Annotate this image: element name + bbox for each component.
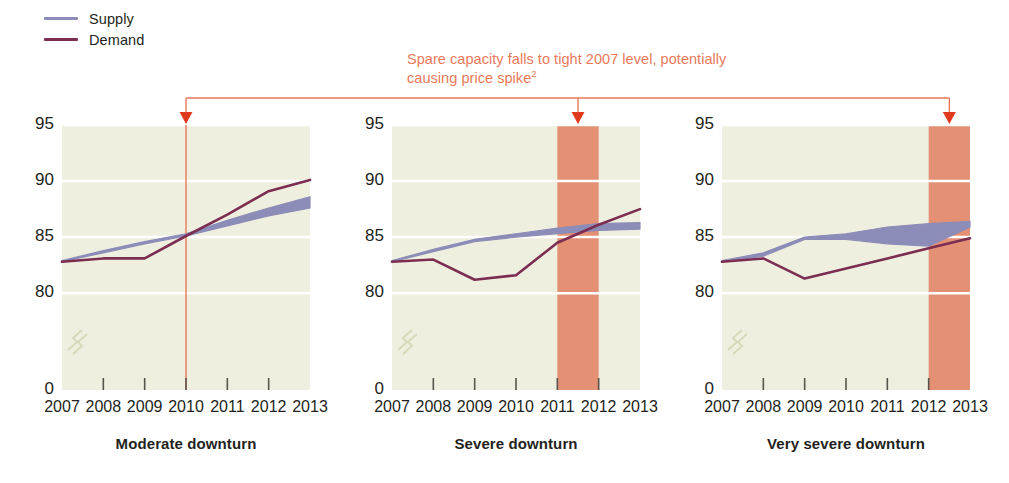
x-axis-tick-label: 2010: [823, 398, 869, 416]
y-axis-tick-label: 90: [20, 170, 54, 190]
y-axis-tick-label: 90: [350, 170, 384, 190]
y-axis-tick-label: 0: [350, 379, 384, 399]
x-axis-tick-label: 2012: [906, 398, 952, 416]
y-axis-tick-label: 90: [680, 170, 714, 190]
x-axis-tick-label: 2010: [493, 398, 539, 416]
x-axis-tick-label: 2011: [534, 398, 580, 416]
x-axis-tick-label: 2008: [80, 398, 126, 416]
connector-arrow-icon: [180, 112, 193, 124]
y-axis-tick-label: 0: [20, 379, 54, 399]
y-axis-tick-label: 85: [20, 226, 54, 246]
y-axis-tick-label: 95: [20, 114, 54, 134]
x-axis-tick-label: 2012: [576, 398, 622, 416]
x-axis-tick-label: 2009: [782, 398, 828, 416]
chart-panel: [62, 125, 310, 390]
y-axis-tick-label: 80: [350, 282, 384, 302]
y-axis-tick-label: 80: [20, 282, 54, 302]
highlight-band: [929, 125, 970, 390]
y-axis-tick-label: 80: [680, 282, 714, 302]
x-axis-tick-label: 2009: [452, 398, 498, 416]
x-axis-tick-label: 2010: [163, 398, 209, 416]
panel-title: Very severe downturn: [692, 435, 1000, 452]
x-axis-tick-label: 2009: [122, 398, 168, 416]
highlight-band: [557, 125, 598, 390]
chart-panel: [722, 125, 970, 390]
connector-arrow-icon: [572, 112, 585, 124]
x-axis-tick-label: 2007: [699, 398, 745, 416]
x-axis-tick-label: 2011: [204, 398, 250, 416]
y-axis-tick-label: 85: [350, 226, 384, 246]
connector-arrow-icon: [943, 112, 956, 124]
x-axis-tick-label: 2008: [740, 398, 786, 416]
connector-bracket: [180, 98, 956, 124]
x-axis-tick-label: 2012: [246, 398, 292, 416]
x-axis-tick-label: 2013: [947, 398, 993, 416]
y-axis-tick-label: 85: [680, 226, 714, 246]
y-axis-tick-label: 0: [680, 379, 714, 399]
plot-background: [392, 125, 640, 390]
x-axis-tick-label: 2013: [287, 398, 333, 416]
x-axis-tick-label: 2007: [39, 398, 85, 416]
x-axis-tick-label: 2008: [410, 398, 456, 416]
chart-panel: [392, 125, 640, 390]
panel-title: Severe downturn: [362, 435, 670, 452]
y-axis-tick-label: 95: [350, 114, 384, 134]
x-axis-tick-label: 2007: [369, 398, 415, 416]
x-axis-tick-label: 2013: [617, 398, 663, 416]
x-axis-tick-label: 2011: [864, 398, 910, 416]
panel-title: Moderate downturn: [32, 435, 340, 452]
chart-figure: Supply Demand Spare capacity falls to ti…: [0, 0, 1009, 483]
y-axis-tick-label: 95: [680, 114, 714, 134]
